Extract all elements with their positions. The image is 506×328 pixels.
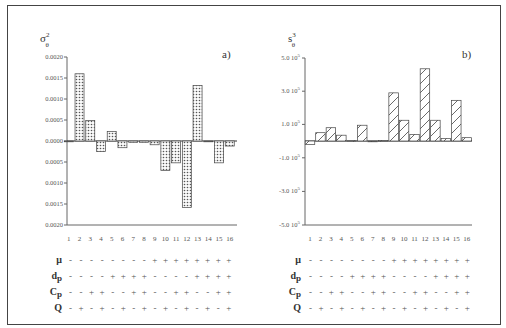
x-tick-label: 2 [319,235,323,243]
bar [139,141,148,142]
y-tick-label: 0.0005 [45,158,63,165]
factor-sign: + [454,271,459,281]
y-tick-label: 0.0005 [45,116,63,123]
factor-sign: - [206,287,209,297]
y-tick-label: -5.0 105 [279,220,300,228]
factor-sign: - [361,255,364,265]
x-tick-label: 8 [142,235,146,243]
factor-sign: + [402,255,407,265]
factor-sign: + [423,287,428,297]
factor-sign: - [111,303,114,313]
x-tick-label: 6 [361,235,365,243]
factor-sign: + [163,255,168,265]
factor-sign: - [372,255,375,265]
panel-label: b) [462,48,472,61]
design-matrix-a: μ--------++++++++dp----++++----++++Cp--+… [50,254,232,313]
factor-sign: + [339,287,344,297]
x-tick-label: 10 [162,235,170,243]
factor-sign: + [454,255,459,265]
factor-sign: + [226,287,231,297]
factor-sign: + [152,255,157,265]
factor-sign: - [434,303,437,313]
factor-sign: + [100,287,105,297]
factor-sign: + [360,271,365,281]
bar [75,74,84,141]
x-tick-label: 14 [442,235,450,243]
factor-sign: + [216,271,221,281]
factor-sign: - [372,303,375,313]
x-tick-label: 12 [421,235,429,243]
x-tick-label: 7 [131,235,135,243]
factor-sign: + [318,303,323,313]
figure: σ2θa)0.00200.00150.00100.00050.00000.000… [0,0,506,328]
factor-sign: - [330,271,333,281]
bar [86,120,95,141]
factor-sign: + [402,303,407,313]
factor-label: dp [290,270,301,283]
x-tick-label: 13 [432,235,440,243]
bar [431,120,441,141]
bar [399,120,409,141]
bar [64,141,73,142]
factor-sign: + [121,303,126,313]
factor-sign: + [142,303,147,313]
factor-sign: + [360,303,365,313]
bar [161,141,170,170]
factor-sign: + [142,287,147,297]
x-tick-label: 1 [308,235,312,243]
factor-sign: - [309,303,312,313]
factor-label: Q [54,302,62,313]
factor-sign: - [185,271,188,281]
factor-sign: - [414,303,417,313]
factor-sign: - [196,287,199,297]
factor-sign: - [69,271,72,281]
bar [326,128,336,141]
factor-sign: + [339,303,344,313]
factor-sign: + [371,287,376,297]
factor-sign: + [195,271,200,281]
factor-sign: - [164,271,167,281]
factor-sign: + [184,255,189,265]
factor-sign: + [329,287,334,297]
factor-sign: + [444,303,449,313]
factor-sign: - [393,303,396,313]
factor-sign: - [434,287,437,297]
y-tick-label: 0.0020 [45,53,63,60]
factor-label: μ [56,254,62,265]
factor-label: Q [293,302,301,313]
y-tick-label: 0.0010 [45,179,63,186]
factor-sign: - [175,303,178,313]
factor-sign: - [414,271,417,281]
factor-sign: + [226,271,231,281]
factor-label: Cp [50,286,62,299]
x-tick-label: 10 [401,235,409,243]
factor-sign: + [465,287,470,297]
factor-sign: - [132,303,135,313]
bar [441,139,451,141]
factor-sign: + [195,255,200,265]
factor-sign: + [412,287,417,297]
bar [215,141,224,163]
bar [420,69,430,141]
factor-sign: + [392,255,397,265]
y-axis-label: s3θ [288,31,296,49]
bar [305,141,315,144]
factor-sign: - [90,303,93,313]
bar [150,141,159,145]
factor-sign: + [465,255,470,265]
factor-sign: - [361,287,364,297]
bar [452,100,462,141]
design-matrix-b: μ--------++++++++dp----++++----++++Cp--+… [289,254,470,313]
bar [204,141,213,142]
factor-sign: + [205,303,210,313]
factor-sign: - [80,271,83,281]
factor-sign: - [351,287,354,297]
x-tick-label: 1 [67,235,71,243]
factor-label: Cp [289,286,301,299]
factor-sign: - [153,287,156,297]
factor-sign: - [309,255,312,265]
x-tick-label: 2 [78,235,82,243]
factor-sign: + [350,271,355,281]
panel-label: a) [222,48,231,61]
y-tick-label: 0.0015 [45,74,63,81]
